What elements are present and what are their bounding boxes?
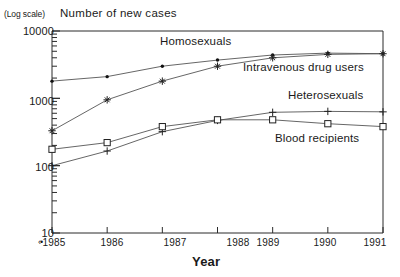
x-tick-label-1987: 1987 [150, 238, 200, 248]
series-label-intravenous-drug-users: Intravenous drug users [243, 62, 364, 74]
x-tick-label-1986: 1986 [87, 238, 137, 248]
x-tick-label-1990: 1990 [300, 238, 350, 248]
y-tick-label-100: 100 [4, 162, 54, 173]
log-scale-note: (Log scale) [4, 10, 45, 19]
x-axis-title: Year [192, 255, 220, 268]
y-tick-label-1000: 1000 [4, 96, 54, 107]
x-tick-label-1985: 1985 [29, 238, 79, 248]
y-tick-label-10000: 10000 [4, 26, 54, 37]
series-label-heterosexuals: Heterosexuals [288, 90, 363, 102]
series-label-blood-recipients: Blood recipients [275, 133, 359, 145]
y-axis-title: Number of new cases [60, 8, 177, 20]
x-tick-label-1989: 1989 [243, 238, 293, 248]
chart-figure: (Log scale) Number of new cases Year ‹• … [0, 0, 400, 277]
x-tick-label-1991: 1991 [350, 238, 400, 248]
series-label-homosexuals: Homosexuals [160, 36, 231, 48]
